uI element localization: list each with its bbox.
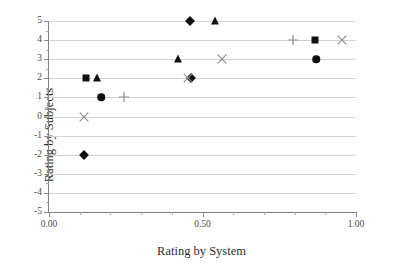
gridline (49, 40, 356, 41)
data-point-plus (288, 35, 299, 46)
data-point-diamond (79, 150, 89, 160)
data-point-cross (337, 35, 348, 46)
x-axis-minor-tick (110, 212, 111, 215)
plot-area: 543210-1-2-3-4-5 0.000.501.00 (48, 21, 356, 213)
x-axis-tick (356, 212, 357, 217)
y-axis-tick-label: 1 (37, 93, 42, 103)
y-axis-tick (44, 21, 49, 22)
y-axis-tick-label: 5 (37, 16, 42, 26)
y-axis-tick-label: -2 (34, 150, 42, 160)
x-axis-minor-tick (264, 212, 265, 215)
y-axis-tick-label: -1 (34, 131, 42, 141)
y-axis-tick-label: 3 (37, 54, 42, 64)
y-axis-minor-tick (46, 69, 49, 70)
y-axis-tick (44, 174, 49, 175)
x-axis-minor-tick (172, 212, 173, 215)
x-axis-minor-tick (141, 212, 142, 215)
y-axis-minor-tick (46, 202, 49, 203)
y-axis-tick (44, 117, 49, 118)
gridline (49, 117, 356, 118)
data-point-circle (312, 55, 320, 63)
gridline (49, 155, 356, 156)
x-axis-minor-tick (233, 212, 234, 215)
y-axis-tick-label: 2 (37, 74, 42, 84)
y-axis-minor-tick (46, 50, 49, 51)
data-point-cross (78, 111, 89, 122)
data-point-triangle (211, 17, 219, 25)
y-axis-tick (44, 78, 49, 79)
x-axis-tick (49, 212, 50, 217)
data-point-square (83, 75, 90, 82)
data-point-plus (119, 92, 130, 103)
y-axis-tick-label: 0 (37, 112, 42, 122)
x-axis-minor-tick (80, 212, 81, 215)
y-axis-tick (44, 97, 49, 98)
y-axis-minor-tick (46, 183, 49, 184)
scatter-chart: Rating by Subjects Rating by System 5432… (0, 0, 399, 270)
y-axis-tick-label: -3 (34, 169, 42, 179)
y-axis-tick (44, 59, 49, 60)
data-point-triangle (174, 55, 182, 63)
x-axis-minor-tick (295, 212, 296, 215)
data-point-cross (182, 73, 193, 84)
y-axis-tick (44, 155, 49, 156)
x-axis-tick-label: 1.00 (348, 220, 365, 230)
y-axis-tick-label: 4 (37, 35, 42, 45)
data-point-cross (217, 54, 228, 65)
y-axis-minor-tick (46, 88, 49, 89)
gridline (49, 21, 356, 22)
x-axis-tick-label: 0.50 (194, 220, 211, 230)
y-axis-minor-tick (46, 107, 49, 108)
y-axis-tick-label: -5 (34, 207, 42, 217)
y-axis-minor-tick (46, 31, 49, 32)
x-axis-minor-tick (325, 212, 326, 215)
y-axis-tick (44, 193, 49, 194)
gridline (49, 136, 356, 137)
y-axis-minor-tick (46, 126, 49, 127)
data-point-square (312, 37, 319, 44)
x-axis-title: Rating by System (48, 244, 355, 259)
x-axis-tick-label: 0.00 (41, 220, 58, 230)
gridline (49, 174, 356, 175)
x-axis-tick (203, 212, 204, 217)
data-point-circle (97, 94, 105, 102)
y-axis-tick-label: -4 (34, 188, 42, 198)
y-axis-minor-tick (46, 164, 49, 165)
gridline (49, 193, 356, 194)
y-axis-tick (44, 40, 49, 41)
y-axis-tick (44, 136, 49, 137)
data-point-diamond (185, 16, 195, 26)
y-axis-minor-tick (46, 145, 49, 146)
gridline (49, 59, 356, 60)
gridline (49, 97, 356, 98)
data-point-triangle (93, 74, 101, 82)
